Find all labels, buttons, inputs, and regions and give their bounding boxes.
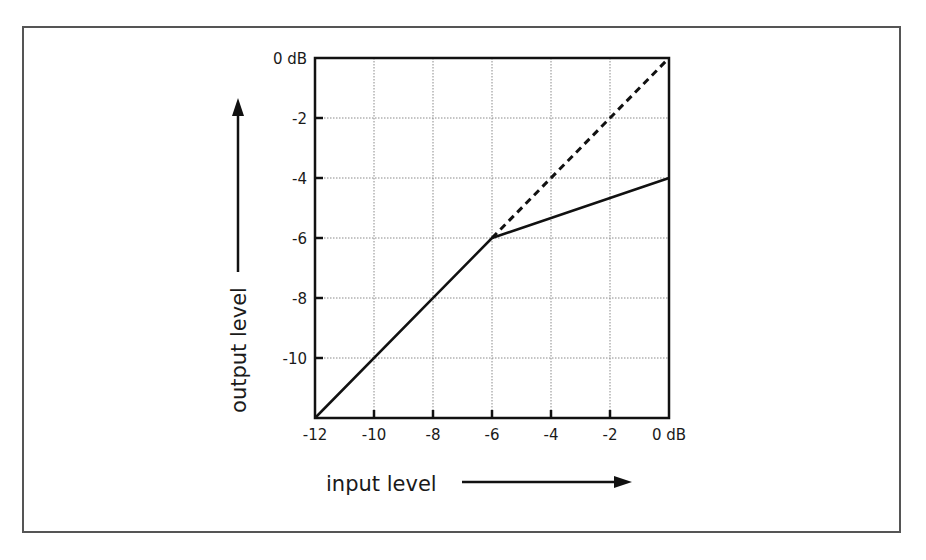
y-tick-label: -8 — [292, 290, 307, 308]
x-tick-label: -12 — [303, 426, 328, 444]
y-axis-arrow-icon — [232, 98, 244, 116]
y-tick-labels: 0 dB -2 -4 -6 -8 -10 — [273, 50, 307, 368]
y-tick-label: -6 — [292, 230, 307, 248]
x-axis-arrow-icon — [614, 476, 632, 488]
compressor-transfer-chart: 0 dB -2 -4 -6 -8 -10 -12 -10 -8 -6 -4 -2… — [0, 0, 926, 560]
y-tick-label: 0 dB — [273, 50, 307, 68]
x-tick-labels: -12 -10 -8 -6 -4 -2 0 dB — [303, 426, 686, 444]
x-axis-title: input level — [326, 472, 437, 496]
x-tick-label: -8 — [426, 426, 441, 444]
unity-reference-line — [492, 58, 669, 238]
x-tick-label: 0 dB — [652, 426, 686, 444]
y-tick-label: -4 — [292, 170, 307, 188]
x-tick-label: -10 — [362, 426, 387, 444]
y-tick-label: -10 — [283, 350, 308, 368]
x-tick-label: -6 — [485, 426, 500, 444]
x-tick-label: -4 — [544, 426, 559, 444]
x-tick-label: -2 — [603, 426, 618, 444]
y-tick-label: -2 — [292, 110, 307, 128]
y-axis-title: output level — [227, 287, 251, 413]
